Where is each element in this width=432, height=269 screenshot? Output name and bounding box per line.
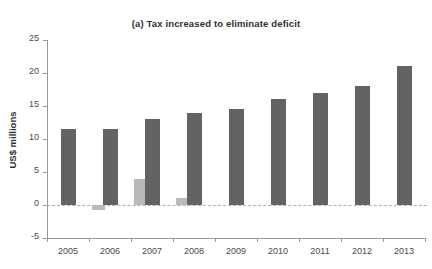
plot-area xyxy=(47,40,425,238)
bar-primary xyxy=(313,93,328,205)
y-tick-label: 15 xyxy=(29,99,39,109)
bar-primary xyxy=(397,66,412,205)
bar-primary xyxy=(229,109,244,205)
y-tick-label: 10 xyxy=(29,132,39,142)
y-tick-label: 20 xyxy=(29,66,39,76)
bar-primary xyxy=(103,129,118,205)
chart-title: (a) Tax increased to eliminate deficit xyxy=(0,18,432,29)
bar-primary xyxy=(355,86,370,205)
chart-figure: (a) Tax increased to eliminate deficit U… xyxy=(0,0,432,269)
y-tick-label: 25 xyxy=(29,33,39,43)
x-tick-label: 2013 xyxy=(394,246,414,256)
x-axis-line xyxy=(47,238,425,239)
y-tick-label: 0 xyxy=(34,198,39,208)
y-axis-title-container: US$ millions xyxy=(4,40,20,240)
y-tick-label: 5 xyxy=(34,165,39,175)
x-tick-mark xyxy=(425,238,426,242)
x-tick-mark xyxy=(299,238,300,242)
x-tick-label: 2010 xyxy=(268,246,288,256)
y-axis-title: US$ millions xyxy=(7,111,18,168)
x-tick-label: 2008 xyxy=(184,246,204,256)
x-tick-mark xyxy=(383,238,384,242)
x-tick-label: 2007 xyxy=(142,246,162,256)
x-tick-mark xyxy=(173,238,174,242)
bar-secondary xyxy=(92,205,105,210)
x-tick-mark xyxy=(89,238,90,242)
x-tick-mark xyxy=(341,238,342,242)
x-tick-mark xyxy=(131,238,132,242)
x-tick-label: 2011 xyxy=(310,246,329,256)
x-tick-mark xyxy=(257,238,258,242)
x-tick-mark xyxy=(215,238,216,242)
bar-primary xyxy=(145,119,160,205)
x-tick-label: 2005 xyxy=(58,246,78,256)
bar-primary xyxy=(271,99,286,205)
x-tick-mark xyxy=(47,238,48,242)
bar-primary xyxy=(187,113,202,205)
bar-primary xyxy=(61,129,76,205)
x-tick-label: 2009 xyxy=(226,246,246,256)
y-tick-label: -5 xyxy=(31,231,39,241)
x-tick-label: 2006 xyxy=(100,246,120,256)
x-tick-label: 2012 xyxy=(352,246,372,256)
